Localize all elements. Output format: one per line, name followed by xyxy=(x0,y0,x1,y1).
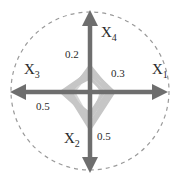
arrowhead-x1-icon xyxy=(152,84,168,100)
value-label-right: 0.3 xyxy=(111,68,125,79)
axis-label-x4-subscript: 4 xyxy=(112,32,117,43)
value-label-down: 0.5 xyxy=(97,131,111,142)
axis-label-x4: X4 xyxy=(101,25,117,43)
axis-label-x4-text: X xyxy=(101,24,112,40)
arrowhead-x3-icon xyxy=(10,84,26,100)
axis-label-x1-text: X xyxy=(152,61,163,77)
axis-label-x1: X1 xyxy=(152,62,168,80)
value-label-left: 0.5 xyxy=(36,101,50,112)
axis-label-x2-text: X xyxy=(64,130,75,146)
axis-arrows xyxy=(24,24,156,160)
axis-label-x3-text: X xyxy=(24,61,35,77)
axis-label-x3-subscript: 3 xyxy=(35,69,40,80)
radar-plot-canvas xyxy=(0,0,183,177)
axis-label-x3: X3 xyxy=(24,62,40,80)
axis-label-x1-subscript: 1 xyxy=(163,69,168,80)
axis-label-x2-subscript: 2 xyxy=(75,138,80,149)
value-label-up: 0.2 xyxy=(65,49,79,60)
radar-plot-figure: X1 X2 X3 X4 0.2 0.3 0.5 0.5 xyxy=(0,0,183,177)
axis-label-x2: X2 xyxy=(64,131,80,149)
arrowhead-x2-icon xyxy=(82,157,98,173)
